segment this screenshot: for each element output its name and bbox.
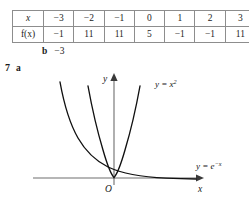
answer-b-value: −3 (54, 46, 64, 56)
y-axis-arrow-icon (110, 73, 117, 81)
table-cell-fx-5: −1 (195, 27, 225, 43)
answer-part-b: b−3 (42, 47, 64, 57)
table-cell-x-1: −2 (74, 11, 104, 27)
table-cell-x-6: 3 (225, 11, 249, 27)
table-cell-fx-1: 11 (74, 27, 104, 43)
x-axis-label: x (197, 184, 203, 194)
origin-label: O (105, 184, 112, 194)
curve-label-parabola: y = x2 (154, 78, 177, 89)
table-header-x: x (13, 11, 44, 27)
curve-exponential (60, 82, 196, 179)
table-cell-x-0: −3 (44, 11, 74, 27)
value-table: x −3 −2 −1 0 1 2 3 f(x) −1 11 11 5 −1 −1… (12, 10, 249, 43)
curve-label-parabola-text: y = x (154, 79, 174, 89)
curve-label-exponential-text: y = e (195, 161, 215, 171)
graph-svg: y x O y = x2 y = e−x (0, 68, 249, 208)
table-cell-fx-0: −1 (44, 27, 74, 43)
answers-page-fragment: x −3 −2 −1 0 1 2 3 f(x) −1 11 11 5 −1 −1… (0, 0, 249, 208)
curve-label-exponential-exponent: −x (215, 160, 222, 167)
table-cell-fx-6: 11 (225, 27, 249, 43)
x-axis-arrow-icon (196, 174, 204, 181)
answer-b-label: b (42, 46, 47, 56)
table-cell-x-3: 0 (134, 11, 164, 27)
table-header-fx: f(x) (13, 27, 44, 43)
table-cell-fx-3: 5 (134, 27, 164, 43)
curve-label-parabola-exponent: 2 (174, 78, 177, 85)
table-row-x: x −3 −2 −1 0 1 2 3 (13, 11, 250, 27)
y-axis-label: y (102, 74, 108, 84)
graph-figure: y x O y = x2 y = e−x (0, 68, 249, 208)
table-cell-x-5: 2 (195, 11, 225, 27)
table-cell-x-2: −1 (104, 11, 134, 27)
curve-label-exponential: y = e−x (195, 160, 222, 171)
table-cell-fx-2: 11 (104, 27, 134, 43)
table-row-fx: f(x) −1 11 11 5 −1 −1 11 (13, 27, 250, 43)
table-cell-x-4: 1 (165, 11, 195, 27)
table-cell-fx-4: −1 (165, 27, 195, 43)
